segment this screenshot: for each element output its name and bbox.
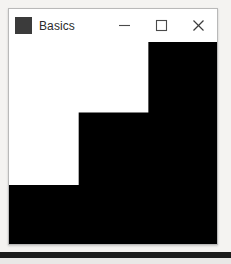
- window-controls: [106, 9, 217, 42]
- application-window: Basics: [8, 8, 218, 245]
- desktop-lower-band: [0, 258, 231, 264]
- window-title: Basics: [39, 20, 75, 32]
- app-square-icon: [15, 17, 32, 34]
- canvas-area: [9, 42, 217, 244]
- staircase-shape: [9, 42, 217, 244]
- close-icon: [192, 19, 205, 32]
- maximize-icon: [155, 19, 168, 32]
- minimize-icon: [118, 19, 131, 32]
- maximize-button[interactable]: [143, 9, 180, 42]
- close-button[interactable]: [180, 9, 217, 42]
- minimize-button[interactable]: [106, 9, 143, 42]
- window-titlebar[interactable]: Basics: [9, 9, 217, 42]
